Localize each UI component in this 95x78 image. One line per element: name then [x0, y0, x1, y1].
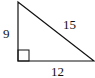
triangle-figure	[0, 0, 95, 78]
label-hypotenuse: 15	[63, 18, 76, 31]
right-angle-marker	[18, 50, 29, 61]
label-horizontal-leg: 12	[51, 65, 64, 78]
label-vertical-leg: 9	[3, 27, 10, 40]
